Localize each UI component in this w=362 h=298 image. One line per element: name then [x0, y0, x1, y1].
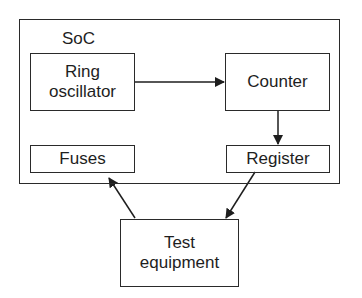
counter-label: Counter: [247, 72, 307, 92]
register-label: Register: [246, 149, 309, 169]
ring-oscillator-label: Ring oscillator: [49, 62, 116, 102]
soc-label: SoC: [62, 29, 95, 49]
counter-block: Counter: [225, 53, 330, 111]
fuses-label: Fuses: [59, 149, 105, 169]
fuses-block: Fuses: [30, 145, 135, 173]
test-equipment-block: Test equipment: [120, 219, 239, 287]
register-block: Register: [226, 145, 330, 173]
arrow-test-to-fuses: [109, 178, 135, 218]
test-equipment-label: Test equipment: [140, 233, 219, 273]
ring-oscillator-block: Ring oscillator: [30, 53, 135, 111]
